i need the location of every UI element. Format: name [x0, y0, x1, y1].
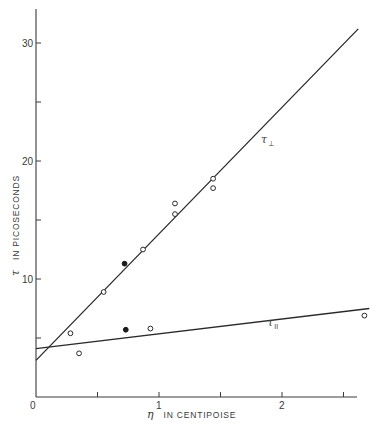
series-tau-perpendicular: τ⊥: [36, 29, 358, 361]
eta-symbol: η: [147, 408, 154, 421]
svg-text:τ IN PICOSECONDS: τ IN PICOSECONDS: [9, 175, 22, 276]
plot-series: τ⊥τII: [36, 29, 369, 361]
series-label: τ⊥: [261, 133, 274, 147]
data-point-open: [362, 313, 367, 318]
data-point-open: [211, 186, 216, 191]
y-axis-ticks: 102030: [22, 38, 41, 339]
fit-line: [36, 29, 358, 361]
data-point-open: [173, 201, 178, 206]
series-label: τII: [267, 316, 278, 330]
series-tau-parallel: τII: [36, 309, 369, 356]
fit-line: [36, 309, 369, 349]
y-tick-label: 30: [22, 38, 34, 49]
x-tick-label: 2: [279, 400, 285, 411]
tau-symbol: τ: [9, 269, 22, 276]
data-point-open: [101, 290, 106, 295]
origin-tick-label: 0: [30, 400, 36, 411]
data-point-open: [68, 331, 73, 336]
y-tick-label: 10: [22, 274, 34, 285]
x-axis-title-text: IN CENTIPOISE: [164, 410, 237, 420]
data-point-open: [141, 247, 146, 252]
axes: 12 102030: [22, 9, 357, 411]
y-axis-title: τ IN PICOSECONDS: [9, 175, 22, 276]
data-point-open: [77, 351, 82, 356]
y-axis-title-text: IN PICOSECONDS: [11, 175, 21, 260]
data-point-filled: [123, 327, 128, 332]
data-point-filled: [122, 261, 127, 266]
x-axis-ticks: 12: [98, 392, 344, 411]
data-point-open: [148, 326, 153, 331]
data-point-open: [211, 176, 216, 181]
data-point-open: [173, 212, 178, 217]
tau-vs-viscosity-chart: 12 102030 0 η IN CENTIPOISE τ IN PICOSEC…: [0, 0, 380, 430]
y-tick-label: 20: [22, 156, 34, 167]
